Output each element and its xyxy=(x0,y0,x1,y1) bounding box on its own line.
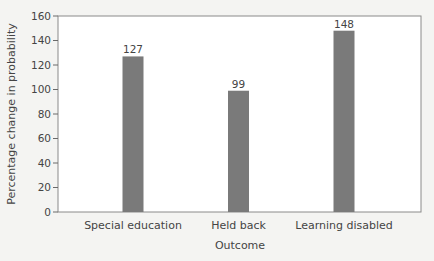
x-axis-categories: Special educationHeld backLearning disab… xyxy=(84,219,393,232)
bar-value-label: 99 xyxy=(232,78,245,90)
x-category-label: Held back xyxy=(211,219,266,232)
bar-value-label: 148 xyxy=(334,18,354,30)
x-axis-title: Outcome xyxy=(215,239,265,252)
y-tick-label: 60 xyxy=(38,132,51,144)
bar-chart: 020406080100120140160 12799148 Special e… xyxy=(0,0,434,261)
y-axis-title: Percentage change in probability xyxy=(5,23,18,205)
y-tick-label: 40 xyxy=(38,157,51,169)
x-category-label: Special education xyxy=(84,219,182,232)
y-axis: 020406080100120140160 xyxy=(31,10,58,218)
x-category-label: Learning disabled xyxy=(295,219,393,232)
y-tick-label: 80 xyxy=(38,108,51,120)
y-tick-label: 120 xyxy=(31,59,51,71)
y-tick-label: 20 xyxy=(38,181,51,193)
y-tick-label: 160 xyxy=(31,10,51,22)
bar xyxy=(123,56,144,212)
bar xyxy=(334,31,355,212)
y-tick-label: 100 xyxy=(31,83,51,95)
y-tick-label: 140 xyxy=(31,34,51,46)
y-tick-label: 0 xyxy=(44,206,51,218)
bar-value-label: 127 xyxy=(123,43,143,55)
bar xyxy=(228,91,249,212)
